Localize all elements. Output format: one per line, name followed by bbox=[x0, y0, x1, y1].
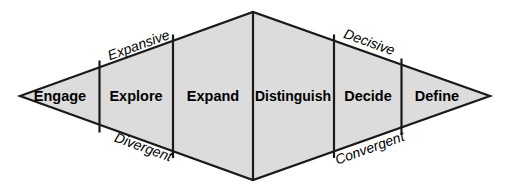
stage-label-engage: Engage bbox=[34, 88, 86, 104]
stage-label-distinguish: Distinguish bbox=[255, 88, 331, 104]
stage-label-decide: Decide bbox=[344, 88, 392, 104]
stage-label-expand: Expand bbox=[187, 88, 239, 104]
stage-label-define: Define bbox=[415, 88, 459, 104]
stage-label-explore: Explore bbox=[109, 88, 162, 104]
diagram-canvas: Engage Explore Expand Distinguish Decide… bbox=[0, 0, 506, 191]
diamond-process-diagram: Engage Explore Expand Distinguish Decide… bbox=[0, 0, 506, 191]
